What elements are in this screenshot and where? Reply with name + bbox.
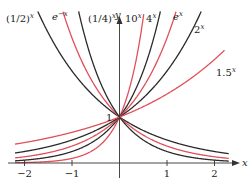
curve-e-x — [15, 12, 176, 158]
x-tick-label: 1 — [164, 168, 170, 179]
x-axis-label: x — [242, 157, 248, 168]
curve-4-x — [15, 11, 160, 160]
label-two-pow-x: 2x — [194, 23, 204, 35]
curve-2-x — [15, 11, 201, 153]
label-quarter-pow-x: (1/4)x — [88, 12, 116, 24]
curve-e-x — [63, 12, 229, 159]
label-e-pow-x: ex — [173, 10, 183, 22]
label-four-pow-x: 4x — [146, 12, 156, 24]
x-tick-label: 2 — [211, 168, 217, 179]
exponential-functions-chart: x y −2−112 1 (1/2)x e−x (1/4)x 10x 4x ex… — [0, 0, 251, 185]
x-axis-arrow-icon — [232, 160, 240, 166]
label-ten-pow-x: 10x — [125, 12, 142, 24]
label-one-point-five-pow-x: 1.5x — [216, 66, 236, 78]
y-one-label: 1 — [106, 112, 112, 123]
label-half-pow-x: (1/2)x — [6, 12, 34, 24]
x-tick-label: −2 — [17, 168, 32, 179]
x-tick-label: −1 — [65, 168, 80, 179]
